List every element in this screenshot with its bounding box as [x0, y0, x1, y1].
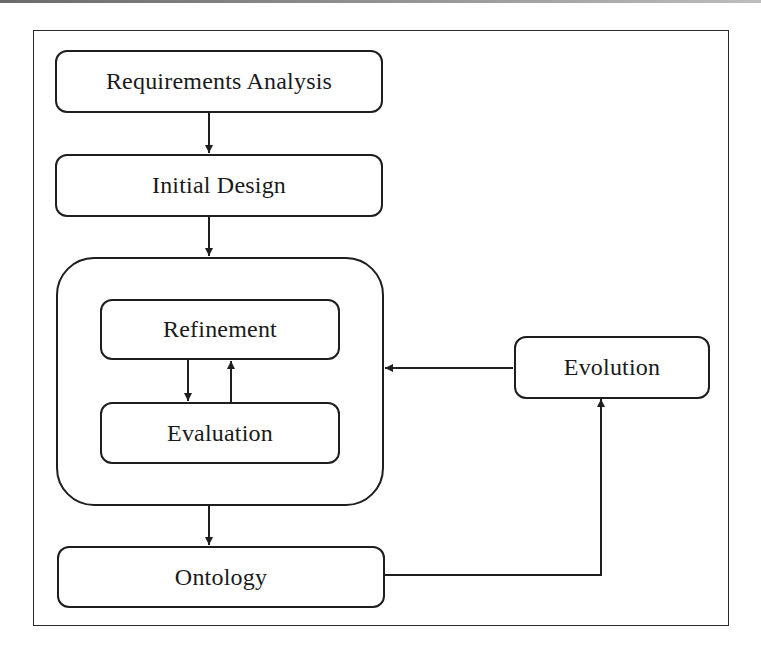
iteration-loop-group: [56, 257, 384, 506]
node-evolution: Evolution: [514, 336, 710, 399]
node-label: Initial Design: [152, 172, 286, 199]
node-label: Ontology: [175, 564, 267, 591]
node-label: Evaluation: [167, 420, 273, 447]
node-label: Refinement: [163, 316, 277, 343]
node-ontology: Ontology: [57, 546, 385, 608]
node-evaluation: Evaluation: [100, 402, 340, 464]
node-initial-design: Initial Design: [55, 154, 383, 217]
node-refinement: Refinement: [100, 299, 340, 360]
node-label: Evolution: [564, 354, 660, 381]
node-requirements-analysis: Requirements Analysis: [55, 50, 383, 113]
top-rule: [0, 0, 761, 3]
node-label: Requirements Analysis: [106, 68, 332, 95]
